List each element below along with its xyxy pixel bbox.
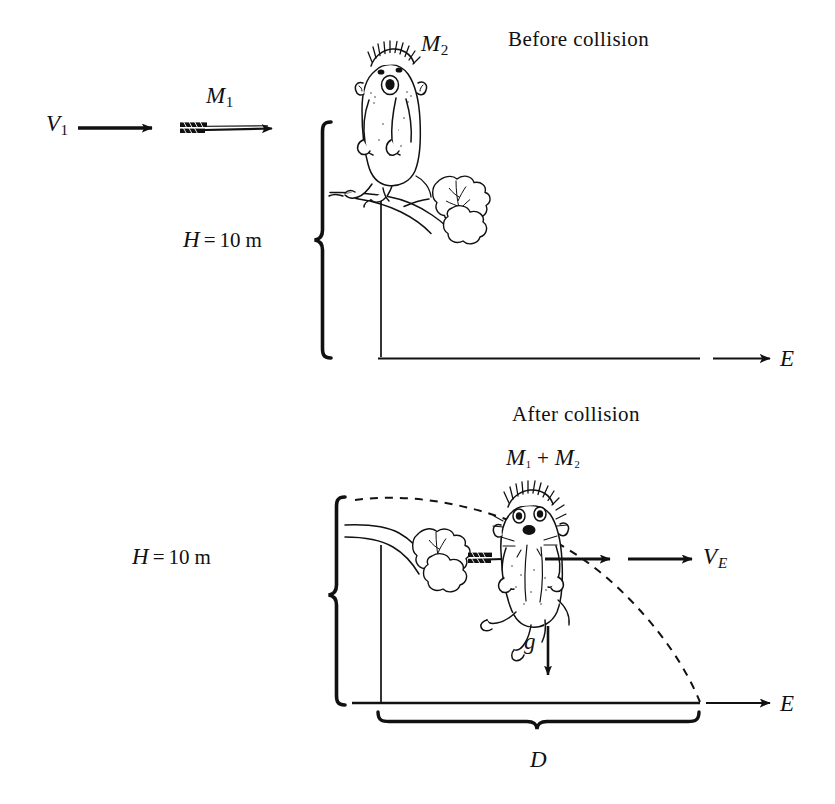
height-brace-top [315, 122, 332, 358]
label-distance-d: D [530, 748, 547, 771]
caption-after-collision: After collision [512, 404, 640, 425]
distance-brace [378, 712, 699, 729]
dart-projectile-top [180, 122, 272, 134]
label-m1: M1 [206, 84, 233, 109]
label-ve: VE [703, 545, 727, 570]
label-height-bottom: H=10m [132, 545, 211, 568]
label-axis-e-bottom: E [780, 692, 794, 715]
label-gravity: g [524, 630, 536, 653]
caption-before-collision: Before collision [508, 29, 649, 50]
dart-fletching-top [180, 122, 207, 134]
label-combined-mass: M1+M2 [506, 446, 580, 471]
physics-diagram-canvas [0, 0, 835, 804]
dart-fletching-bottom [468, 552, 492, 564]
figure-page: V1 M1 M2 Before collision H=10m E After … [0, 0, 835, 804]
label-axis-e-top: E [780, 347, 794, 370]
label-m2: M2 [421, 32, 448, 57]
label-height-top: H=10m [183, 228, 262, 251]
height-brace-bottom [329, 497, 346, 705]
monkey-sitting [329, 41, 431, 207]
label-v1: V1 [46, 112, 68, 137]
